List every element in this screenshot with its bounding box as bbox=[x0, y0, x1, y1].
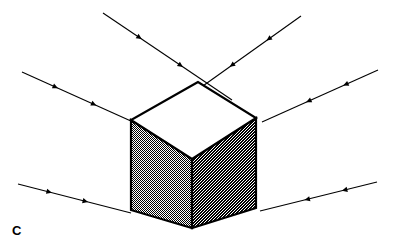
ray-top-left-arrowhead-2 bbox=[177, 62, 184, 69]
ray-top-left bbox=[103, 13, 232, 100]
ray-top-left-arrowhead-1 bbox=[136, 34, 143, 41]
ray-middle-right-arrowhead-1 bbox=[342, 81, 349, 88]
ray-bottom-right bbox=[260, 182, 377, 211]
panel-label: C bbox=[12, 224, 22, 237]
ray-middle-left bbox=[22, 72, 142, 126]
ray-bottom-right-arrowhead-2 bbox=[304, 196, 311, 202]
ray-middle-right-arrowhead-2 bbox=[305, 98, 312, 105]
ray-middle-left-arrowhead-1 bbox=[52, 84, 59, 91]
ray-middle-left-line bbox=[22, 72, 142, 126]
ray-top-left-line bbox=[103, 13, 232, 100]
ray-bottom-right-line bbox=[260, 182, 377, 211]
ray-middle-left-arrowhead-2 bbox=[90, 101, 97, 108]
cube-illumination-diagram bbox=[0, 0, 394, 251]
figure-panel-c: C bbox=[0, 0, 394, 251]
ray-top-right-arrowhead-1 bbox=[265, 35, 272, 42]
ray-middle-right-line bbox=[262, 70, 378, 122]
ray-top-right-arrowhead-2 bbox=[228, 62, 235, 69]
ray-bottom-left-arrowhead-2 bbox=[82, 198, 89, 204]
cube-group bbox=[131, 82, 256, 228]
ray-middle-right bbox=[262, 70, 378, 122]
ray-bottom-left-arrowhead-1 bbox=[46, 189, 53, 195]
ray-bottom-left bbox=[18, 184, 131, 213]
ray-bottom-left-line bbox=[18, 184, 131, 213]
ray-bottom-right-arrowhead-1 bbox=[341, 187, 348, 193]
